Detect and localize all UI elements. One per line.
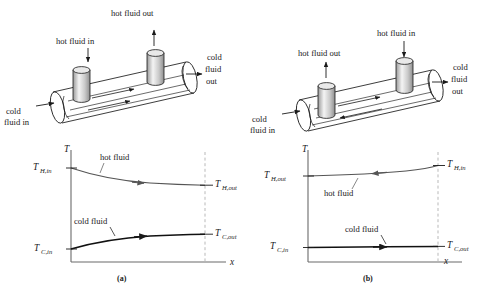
label-th-in: T H,in <box>447 159 466 171</box>
cold-in-arrow <box>36 103 54 106</box>
cold-fluid-out-label-line2: fluid <box>205 64 222 74</box>
cold-fluid-in-label-line1: cold <box>252 114 267 124</box>
cold-fluid-in-label-line1: cold <box>6 106 21 116</box>
hot-inlet-nozzle <box>73 67 90 103</box>
panel-b-canvas: hot fluid out hot fluid in cold fluid in… <box>246 0 492 292</box>
svg-text:H,out: H,out <box>221 184 237 191</box>
svg-text:T: T <box>447 159 453 169</box>
cold-in-arrow <box>282 111 300 114</box>
temperature-profile-chart-b: T x hot fluid cold fluid T <box>264 144 469 266</box>
hot-fluid-in-label: hot fluid in <box>377 28 416 38</box>
panel-counter-flow: hot fluid out hot fluid in cold fluid in… <box>246 0 492 292</box>
svg-text:T: T <box>215 179 221 189</box>
hot-outlet-nozzle <box>147 50 164 86</box>
hot-fluid-curve <box>308 166 438 177</box>
svg-text:T: T <box>447 240 453 250</box>
cold-fluid-in-label-line2: fluid in <box>250 125 276 135</box>
hot-inlet-nozzle <box>396 58 413 94</box>
svg-text:T: T <box>34 243 40 253</box>
hot-fluid-annotation: hot fluid <box>100 152 130 162</box>
svg-text:H,out: H,out <box>270 175 286 182</box>
panel-caption-b: (b) <box>363 274 373 283</box>
heat-exchanger-shell <box>294 68 446 132</box>
hot-fluid-out-label: hot fluid out <box>111 8 154 18</box>
panel-parallel-flow: hot fluid in hot fluid out cold fluid in… <box>0 0 246 292</box>
y-axis-label: T <box>64 144 70 154</box>
temperature-profile-chart-a: T x hot fluid cold fluid <box>33 144 237 267</box>
cold-fluid-annotation: cold fluid <box>345 224 379 234</box>
heat-exchanger-figure: hot fluid in hot fluid out cold fluid in… <box>0 0 492 292</box>
label-th-in: T H,in <box>33 162 52 174</box>
hot-fluid-out-label: hot fluid out <box>298 48 341 58</box>
panel-caption-a: (a) <box>117 274 127 283</box>
label-tc-out: T C,out <box>447 240 469 252</box>
cold-fluid-in-label-line2: fluid in <box>4 117 30 127</box>
label-th-out: T H,out <box>215 179 237 191</box>
hot-fluid-annotation: hot fluid <box>324 188 354 198</box>
shell-flow-arrow <box>338 97 380 106</box>
svg-text:H,in: H,in <box>39 167 52 174</box>
svg-text:T: T <box>33 162 39 172</box>
svg-text:C,in: C,in <box>41 248 53 255</box>
label-th-out: T H,out <box>264 170 286 182</box>
svg-text:T: T <box>215 228 221 238</box>
cold-fluid-out-label-line1: cold <box>207 52 222 62</box>
tube-flow-arrow-reverse <box>340 109 382 118</box>
svg-text:C,out: C,out <box>222 233 237 240</box>
cold-fluid-leader-line <box>381 235 386 244</box>
cold-fluid-direction-arrow <box>134 236 147 237</box>
label-tc-in: T C,in <box>34 243 53 255</box>
hot-fluid-leader-line <box>352 178 358 189</box>
internal-flow-arrows <box>88 89 134 110</box>
cold-fluid-out-label-line2: fluid <box>451 74 468 84</box>
shell-flow-arrow <box>92 89 134 98</box>
svg-text:T: T <box>270 241 276 251</box>
svg-text:H,in: H,in <box>453 164 466 171</box>
svg-text:C,in: C,in <box>277 246 289 253</box>
label-tc-in: T C,in <box>270 241 289 253</box>
heat-exchanger-shell <box>48 60 200 124</box>
hot-fluid-direction-arrow <box>372 172 387 173</box>
hot-fluid-leader-line <box>100 163 104 173</box>
cold-fluid-leader-line <box>110 227 115 236</box>
svg-text:T: T <box>264 170 270 180</box>
cold-fluid-annotation: cold fluid <box>74 216 108 226</box>
x-axis-label: x <box>443 256 449 266</box>
hot-outlet-nozzle <box>318 83 335 119</box>
x-axis-label: x <box>229 257 235 267</box>
hot-fluid-in-label: hot fluid in <box>56 36 95 46</box>
panel-a-canvas: hot fluid in hot fluid out cold fluid in… <box>0 0 246 292</box>
cold-fluid-out-label-line3: out <box>206 76 218 86</box>
cold-fluid-out-label-line1: cold <box>453 62 468 72</box>
svg-text:C,out: C,out <box>454 245 469 252</box>
y-axis-label: T <box>302 144 308 154</box>
cold-fluid-out-label-line3: out <box>452 86 464 96</box>
label-tc-out: T C,out <box>215 228 237 240</box>
